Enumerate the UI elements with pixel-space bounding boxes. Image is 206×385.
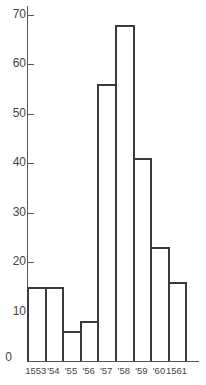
histogram-chart: 010203040506070 1553'54'55'56'57'58'59'6… (0, 0, 206, 385)
x-axis-line (27, 361, 199, 362)
y-tick (28, 163, 34, 164)
y-tick-label: 70 (4, 8, 26, 20)
x-tick-label: 1561 (164, 366, 190, 376)
y-tick (28, 15, 34, 16)
y-tick (28, 114, 34, 115)
y-tick (28, 64, 34, 65)
y-tick (28, 262, 34, 263)
y-tick-label: 20 (4, 255, 26, 267)
y-tick-label: 40 (4, 156, 26, 168)
y-tick (28, 361, 34, 362)
y-tick-label: 30 (4, 206, 26, 218)
y-tick-label: 60 (4, 57, 26, 69)
y-tick (28, 213, 34, 214)
y-tick-label: 10 (4, 305, 26, 317)
bar-1561 (168, 282, 188, 361)
y-tick-label: 50 (4, 107, 26, 119)
y-tick-label: 0 (0, 351, 12, 363)
